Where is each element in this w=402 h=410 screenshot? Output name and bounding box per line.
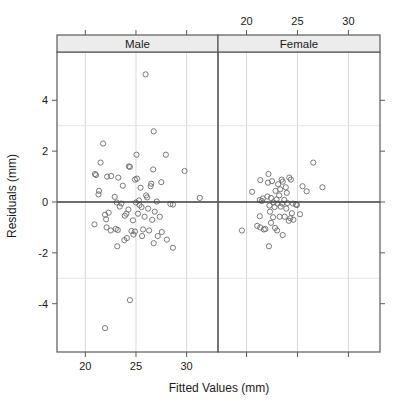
x-tick-label-bottom: 30 [180, 360, 192, 372]
plot-background [0, 0, 402, 410]
x-tick-label-top: 30 [342, 15, 354, 27]
y-tick-label: 2 [42, 145, 48, 157]
x-tick-label-bottom: 25 [130, 360, 142, 372]
plot-svg: MaleFemale 202530202530420-2-4 Fitted Va… [0, 0, 402, 410]
strip-label-female: Female [280, 38, 318, 50]
y-tick-label: 4 [42, 94, 48, 106]
y-tick-label: 0 [42, 196, 48, 208]
y-axis-title: Residuals (mm) [5, 154, 19, 238]
x-tick-label-top: 25 [291, 15, 303, 27]
residual-plot-figure: MaleFemale 202530202530420-2-4 Fitted Va… [0, 0, 402, 410]
strip-label-male: Male [125, 38, 150, 50]
x-tick-label-top: 20 [240, 15, 252, 27]
x-tick-label-bottom: 20 [79, 360, 91, 372]
y-tick-label: -2 [38, 247, 48, 259]
x-axis-title: Fitted Values (mm) [169, 381, 269, 395]
y-tick-label: -4 [38, 298, 48, 310]
strip-headers: MaleFemale [57, 35, 380, 52]
